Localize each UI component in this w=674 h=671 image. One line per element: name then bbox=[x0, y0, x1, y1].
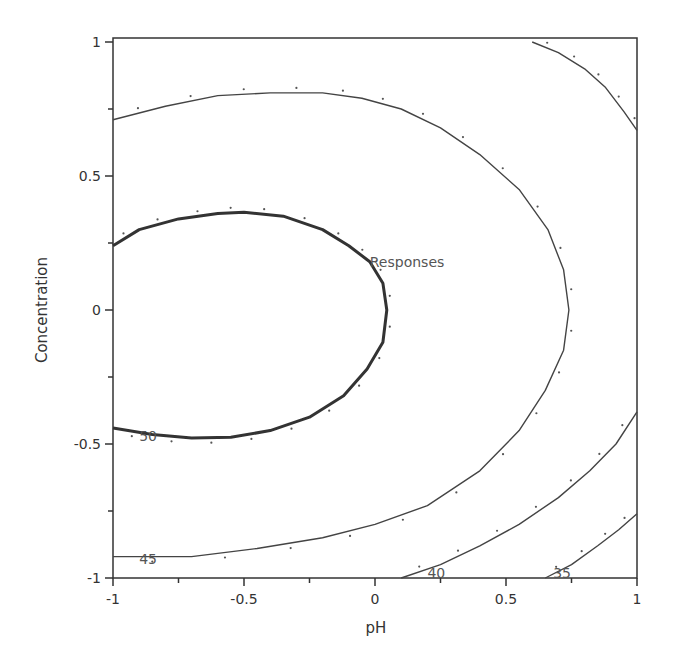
contour-dot bbox=[131, 435, 133, 437]
contour-dot bbox=[536, 205, 538, 207]
y-tick-label: -0.5 bbox=[74, 436, 101, 452]
x-axis-title: pH bbox=[366, 619, 387, 637]
contour-dot bbox=[502, 167, 504, 169]
contour-dot bbox=[558, 371, 560, 373]
y-axis-title: Concentration bbox=[33, 257, 51, 363]
contour-dot bbox=[224, 556, 226, 558]
contour-dot bbox=[358, 385, 360, 387]
contour-dot bbox=[457, 550, 459, 552]
contour-chart: -1-0.500.51 -1-0.500.51 50454035Response… bbox=[0, 0, 674, 671]
contour-dot bbox=[137, 107, 139, 109]
contour-40-line bbox=[401, 412, 637, 578]
contour-dot bbox=[243, 88, 245, 90]
contour-45-line bbox=[532, 42, 637, 130]
contour-dot bbox=[623, 517, 625, 519]
y-tick-label: 1 bbox=[92, 34, 101, 50]
contour-dot bbox=[573, 55, 575, 57]
contour-dot bbox=[422, 113, 424, 115]
contour-dot bbox=[303, 217, 305, 219]
contour-45-line bbox=[113, 93, 569, 557]
contour-dot bbox=[342, 90, 344, 92]
contour-dot bbox=[455, 491, 457, 493]
contour-dot bbox=[382, 98, 384, 100]
contour-dot bbox=[290, 428, 292, 430]
contour-dot bbox=[546, 42, 548, 44]
contour-label-50: 50 bbox=[139, 428, 157, 444]
contour-dot bbox=[570, 288, 572, 290]
contour-dot bbox=[295, 87, 297, 89]
contour-dot bbox=[250, 438, 252, 440]
y-tick-label: 0 bbox=[92, 302, 101, 318]
contour-lines bbox=[113, 42, 637, 578]
contour-dot bbox=[502, 453, 504, 455]
contour-dot bbox=[618, 95, 620, 97]
contour-dot bbox=[598, 453, 600, 455]
contour-dot bbox=[496, 530, 498, 532]
contour-dot bbox=[604, 533, 606, 535]
contour-50-line bbox=[113, 212, 387, 438]
contour-dot bbox=[337, 232, 339, 234]
contour-dot bbox=[122, 232, 124, 234]
contour-dot bbox=[462, 136, 464, 138]
contour-dot bbox=[156, 218, 158, 220]
contour-dot bbox=[263, 208, 265, 210]
x-tick-label: -1 bbox=[106, 591, 120, 607]
contour-dot bbox=[402, 519, 404, 521]
x-axis-ticks: -1-0.500.51 bbox=[106, 578, 641, 607]
contour-dot bbox=[230, 207, 232, 209]
contour-dots bbox=[122, 42, 635, 568]
contour-dot bbox=[378, 357, 380, 359]
y-axis-ticks: -1-0.500.51 bbox=[74, 34, 113, 586]
contour-dot bbox=[535, 412, 537, 414]
responses-annotation: Responses bbox=[370, 254, 445, 270]
contour-label-40: 40 bbox=[427, 565, 445, 581]
contour-dot bbox=[418, 565, 420, 567]
x-tick-label: 1 bbox=[633, 591, 642, 607]
contour-dot bbox=[597, 73, 599, 75]
contour-dot bbox=[559, 247, 561, 249]
contour-dot bbox=[633, 117, 635, 119]
contour-dot bbox=[535, 506, 537, 508]
contour-dot bbox=[361, 249, 363, 251]
contour-dot bbox=[570, 330, 572, 332]
contour-dot bbox=[196, 210, 198, 212]
contour-label-45: 45 bbox=[139, 551, 157, 567]
contour-dot bbox=[621, 424, 623, 426]
x-tick-label: 0.5 bbox=[495, 591, 517, 607]
contour-dot bbox=[570, 479, 572, 481]
contour-dot bbox=[328, 410, 330, 412]
contour-dot bbox=[290, 547, 292, 549]
y-tick-label: -1 bbox=[87, 570, 101, 586]
y-tick-label: 0.5 bbox=[79, 168, 101, 184]
contour-dot bbox=[210, 442, 212, 444]
contour-dot bbox=[170, 440, 172, 442]
contour-dot bbox=[389, 295, 391, 297]
contour-dot bbox=[389, 326, 391, 328]
x-tick-label: -0.5 bbox=[230, 591, 257, 607]
contour-dot bbox=[349, 535, 351, 537]
contour-dot bbox=[581, 550, 583, 552]
contour-dot bbox=[189, 95, 191, 97]
contour-label-35: 35 bbox=[553, 565, 571, 581]
x-tick-label: 0 bbox=[371, 591, 380, 607]
